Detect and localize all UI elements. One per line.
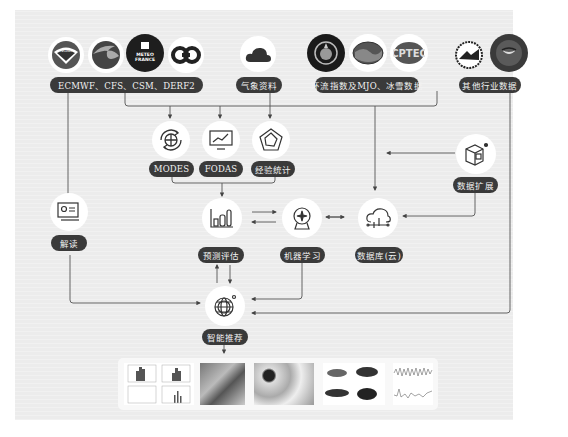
cube-icon — [456, 134, 496, 174]
source-label-weather: 气象资料 — [236, 77, 282, 93]
cloud-db-icon — [358, 198, 398, 238]
model-modes: MODES — [149, 161, 194, 177]
source-label-industry: 其他行业数据 — [459, 77, 521, 93]
interpret-label: 解读 — [51, 235, 87, 251]
svg-text:CPTEC: CPTEC — [393, 48, 425, 59]
regional-maps — [323, 363, 385, 405]
cptec-logo: CPTEC — [390, 34, 428, 72]
model-fodas: FODAS — [199, 161, 243, 177]
source-label-models: ECMWF、CFS、CSM、DERF2 — [50, 77, 203, 93]
ecmwf-style-logo — [168, 37, 204, 73]
pentagon-radar-icon — [252, 121, 290, 159]
presentation-icon — [50, 193, 88, 231]
svg-text:NOAA: NOAA — [60, 48, 72, 53]
robot-icon — [282, 198, 322, 238]
recommend-label: 智能推荐 — [202, 329, 248, 345]
terrain-map — [200, 363, 245, 405]
ocean-logo — [349, 34, 387, 72]
weather-service-logo — [452, 38, 486, 72]
db-label: 数据库(云) — [355, 247, 403, 263]
evaluate-label: 预测评估 — [198, 247, 244, 263]
nasa-style-logo — [490, 34, 528, 72]
cloud-logo — [240, 36, 276, 72]
histogram-panels — [124, 363, 194, 405]
monitor-chart-icon — [202, 121, 240, 159]
model-statistics: 经验统计 — [251, 161, 295, 177]
source-label-circulation: 环流指数及MJO、冰雪数据 — [315, 77, 419, 93]
globe-icon — [205, 286, 245, 326]
contour-map — [254, 363, 314, 405]
wmo-logo — [307, 34, 345, 72]
ecmwf-logo — [88, 37, 124, 73]
noaa-logo: NOAA — [48, 37, 84, 73]
cycle-icon — [152, 121, 190, 159]
svg-text:FRANCE: FRANCE — [135, 57, 155, 62]
ml-label: 机器学习 — [280, 247, 325, 263]
meteo-france-logo: METEOFRANCE — [126, 34, 164, 72]
time-series — [393, 363, 433, 405]
data-expand-label: 数据扩展 — [453, 177, 498, 193]
output-gallery — [118, 358, 438, 410]
bar-chart-icon — [202, 198, 242, 238]
